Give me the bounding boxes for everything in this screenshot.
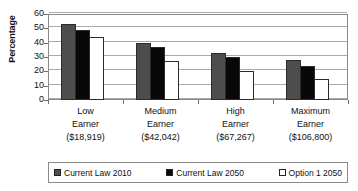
legend-label: Current Law 2010 xyxy=(64,168,132,178)
x-category-label-line: Earner xyxy=(193,118,279,131)
y-tick-label: 30 xyxy=(20,52,44,61)
x-category-label: HighEarner($67,267) xyxy=(193,105,279,144)
y-axis-title: Percentage xyxy=(7,3,17,75)
bar-group xyxy=(211,14,254,100)
legend-item[interactable]: Current Law 2010 xyxy=(54,168,132,178)
bar xyxy=(239,71,254,100)
bar xyxy=(89,37,104,100)
legend-item[interactable]: Current Law 2050 xyxy=(166,168,244,178)
bar xyxy=(225,57,240,100)
y-tick-label: 60 xyxy=(20,9,44,18)
legend-swatch-icon xyxy=(279,169,286,176)
bar xyxy=(61,24,76,100)
bar xyxy=(75,30,90,100)
x-category-label: MaximumEarner($106,800) xyxy=(268,105,354,144)
bar xyxy=(136,43,151,100)
legend-swatch-icon xyxy=(166,169,173,176)
bars-layer xyxy=(48,14,348,100)
x-category-label-line: Earner xyxy=(268,118,354,131)
legend-label: Option 1 2050 xyxy=(289,168,342,178)
bar-group xyxy=(136,14,179,100)
gridline xyxy=(49,12,347,13)
bar-group xyxy=(286,14,329,100)
y-tick-label: 20 xyxy=(20,66,44,75)
bar xyxy=(211,53,226,100)
x-category-label-line: Earner xyxy=(43,118,129,131)
bar xyxy=(150,47,165,100)
x-category-label: MediumEarner($42,042) xyxy=(118,105,204,144)
x-category-label-line: Low xyxy=(43,105,129,118)
x-category-label-line: Medium xyxy=(118,105,204,118)
bar-group xyxy=(61,14,104,100)
legend-item[interactable]: Option 1 2050 xyxy=(279,168,342,178)
x-category-label-line: Maximum xyxy=(268,105,354,118)
bar xyxy=(300,66,315,100)
x-category-label-line: ($106,800) xyxy=(268,131,354,144)
x-category-label: LowEarner($18,919) xyxy=(43,105,129,144)
x-category-label-line: ($67,267) xyxy=(193,131,279,144)
y-tick-label: 40 xyxy=(20,38,44,47)
bar-chart: Percentage 0102030405060 LowEarner($18,9… xyxy=(0,0,358,191)
x-category-label-line: High xyxy=(193,105,279,118)
legend-swatch-icon xyxy=(54,169,61,176)
x-category-label-line: ($18,919) xyxy=(43,131,129,144)
x-tick-mark xyxy=(273,100,274,104)
legend-label: Current Law 2050 xyxy=(176,168,244,178)
y-tick-label: 0 xyxy=(20,95,44,104)
x-tick-mark xyxy=(123,100,124,104)
x-category-label-line: ($42,042) xyxy=(118,131,204,144)
bar xyxy=(164,61,179,100)
chart-legend: Current Law 2010Current Law 2050Option 1… xyxy=(48,162,348,183)
bar xyxy=(314,79,329,101)
y-tick-label: 50 xyxy=(20,23,44,32)
x-tick-mark xyxy=(348,100,349,104)
x-category-label-line: Earner xyxy=(118,118,204,131)
x-tick-mark xyxy=(48,100,49,104)
bar xyxy=(286,60,301,100)
x-tick-mark xyxy=(198,100,199,104)
y-tick-label: 10 xyxy=(20,81,44,90)
